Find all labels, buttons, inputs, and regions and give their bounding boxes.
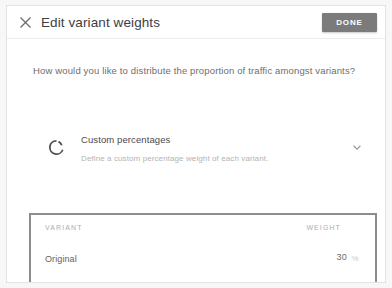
edit-variant-weights-dialog: Edit variant weights DONE How would you … [6, 5, 386, 283]
dialog-body: How would you like to distribute the pro… [7, 65, 385, 76]
question-text: How would you like to distribute the pro… [33, 65, 385, 76]
variant-name: Original [45, 254, 313, 264]
chevron-down-icon[interactable] [351, 141, 363, 153]
variant-weights-table: VARIANT WEIGHT Original % Variant 1 [29, 213, 377, 283]
dialog-header: Edit variant weights DONE [7, 6, 385, 39]
weight-input-original[interactable] [313, 252, 347, 265]
page-background: Edit variant weights DONE How would you … [0, 0, 392, 288]
strategy-title: Custom percentages [81, 134, 170, 145]
column-header-variant: VARIANT [45, 224, 306, 231]
strategy-text-block: Custom percentages Define a custom perce… [81, 129, 351, 165]
column-header-weight: WEIGHT [306, 224, 341, 231]
table-row: Variant 1 % [31, 277, 375, 283]
done-button[interactable]: DONE [322, 13, 377, 32]
pie-chart-icon [43, 134, 69, 160]
table-header-row: VARIANT WEIGHT [31, 215, 375, 240]
strategy-subtitle: Define a custom percentage weight of eac… [81, 154, 268, 163]
distribution-strategy-select[interactable]: Custom percentages Define a custom perce… [29, 129, 377, 165]
close-icon[interactable] [11, 8, 39, 36]
table-row: Original % [31, 240, 375, 277]
percent-symbol: % [347, 254, 363, 265]
page-title: Edit variant weights [41, 15, 322, 30]
weight-cell: % [313, 252, 363, 265]
